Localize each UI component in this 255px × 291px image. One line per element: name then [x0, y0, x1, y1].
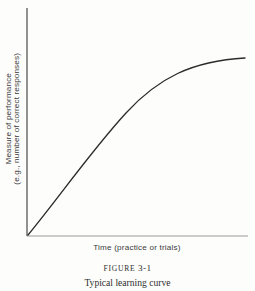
figure-caption-number-line: FIGURE 3-1	[0, 262, 255, 275]
learning-curve-path	[28, 58, 245, 235]
x-axis-label: Time (practice or trials)	[26, 243, 248, 252]
learning-curve-figure: Measure of performance (e.g., number of …	[0, 0, 255, 255]
figure-caption-title: Typical learning curve	[0, 277, 255, 288]
y-axis-label-line2: (e.g., number of correct responses)	[13, 53, 21, 185]
figure-caption-prefix: FIGURE	[104, 264, 136, 273]
figure-caption-number: 3-1	[138, 263, 151, 273]
y-axis-label: Measure of performance (e.g., number of …	[0, 0, 26, 238]
figure-caption: FIGURE 3-1 Typical learning curve	[0, 262, 255, 288]
plot-canvas	[0, 0, 255, 255]
figure-page: Measure of performance (e.g., number of …	[0, 0, 255, 291]
